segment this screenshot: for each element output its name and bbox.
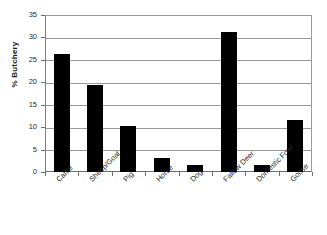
x-axis-label: Pig [122, 170, 135, 183]
y-tick-label: 15 [3, 101, 37, 109]
x-tick-mark [279, 172, 280, 176]
x-tick-mark [78, 172, 79, 176]
bar-slot [145, 15, 178, 172]
x-tick-mark [45, 172, 46, 176]
y-tick-label: 10 [3, 123, 37, 131]
bar-slot [245, 15, 278, 172]
y-tick-label: 30 [3, 33, 37, 41]
x-tick-mark [245, 172, 246, 176]
bar[interactable] [221, 32, 237, 172]
bar-chart: % Butchery 05101520253035 CattleSheep/Go… [0, 0, 327, 235]
x-tick-mark [312, 172, 313, 176]
bar-slot [45, 15, 78, 172]
bar-slot [112, 15, 145, 172]
x-tick-mark [179, 172, 180, 176]
bar[interactable] [87, 85, 103, 172]
bar[interactable] [54, 54, 70, 172]
bar-slot [179, 15, 212, 172]
y-tick-label: 20 [3, 78, 37, 86]
x-tick-mark [212, 172, 213, 176]
bar-slot [78, 15, 111, 172]
bar-slot [212, 15, 245, 172]
y-tick-label: 5 [3, 146, 37, 154]
y-tick-label: 0 [3, 168, 37, 176]
y-tick-label: 35 [3, 11, 37, 19]
x-tick-mark [112, 172, 113, 176]
y-tick-label: 25 [3, 56, 37, 64]
bars-layer [45, 15, 312, 172]
x-tick-mark [145, 172, 146, 176]
bar[interactable] [120, 126, 136, 172]
